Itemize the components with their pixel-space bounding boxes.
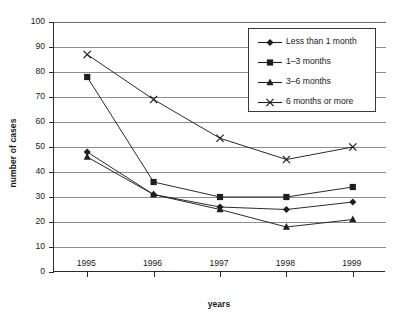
x-tick-label: 1995 bbox=[56, 259, 116, 268]
x-tick-mark bbox=[220, 272, 221, 277]
y-tick-label: 50 bbox=[0, 142, 45, 151]
data-point-cross bbox=[216, 135, 223, 142]
legend-item[interactable]: 1–3 months bbox=[256, 52, 374, 73]
data-point-square bbox=[350, 184, 356, 190]
x-tick-mark bbox=[353, 272, 354, 277]
y-tick-mark bbox=[49, 272, 54, 273]
y-tick-label: 10 bbox=[0, 242, 45, 251]
x-tick-label: 1999 bbox=[322, 259, 382, 268]
line-chart: number of cases years 010203040506070809… bbox=[0, 0, 409, 330]
y-tick-label: 90 bbox=[0, 42, 45, 51]
legend-label: 3–6 months bbox=[286, 77, 331, 86]
y-tick-label: 80 bbox=[0, 67, 45, 76]
x-tick-mark bbox=[286, 272, 287, 277]
triangle-marker bbox=[256, 72, 284, 93]
data-point-square bbox=[283, 194, 289, 200]
data-point-square bbox=[151, 179, 157, 185]
diamond-marker bbox=[256, 32, 284, 53]
y-tick-label: 40 bbox=[0, 167, 45, 176]
legend-item[interactable]: 6 months or more bbox=[256, 92, 374, 113]
x-tick-label: 1996 bbox=[123, 259, 183, 268]
y-tick-label: 60 bbox=[0, 117, 45, 126]
legend-item[interactable]: Less than 1 month bbox=[256, 32, 374, 53]
y-tick-label: 70 bbox=[0, 92, 45, 101]
data-point-cross bbox=[150, 96, 157, 103]
cross-marker bbox=[256, 92, 284, 113]
legend-label: 1–3 months bbox=[286, 57, 331, 66]
square-marker bbox=[256, 52, 284, 73]
data-point-diamond bbox=[349, 198, 356, 205]
data-point-square bbox=[84, 74, 90, 80]
legend-item[interactable]: 3–6 months bbox=[256, 72, 374, 93]
x-tick-label: 1997 bbox=[189, 259, 249, 268]
data-point-diamond bbox=[283, 206, 290, 213]
y-tick-label: 30 bbox=[0, 192, 45, 201]
data-point-square bbox=[217, 194, 223, 200]
y-tick-label: 20 bbox=[0, 217, 45, 226]
series-3 bbox=[84, 153, 357, 230]
legend-label: Less than 1 month bbox=[286, 37, 357, 46]
x-axis-title: years bbox=[53, 299, 385, 309]
x-tick-label: 1998 bbox=[255, 259, 315, 268]
y-tick-label: 100 bbox=[0, 17, 45, 26]
data-point-cross bbox=[84, 51, 91, 58]
legend: Less than 1 month1–3 months3–6 months6 m… bbox=[248, 28, 376, 112]
y-tick-label: 0 bbox=[0, 267, 45, 276]
series-1 bbox=[84, 148, 357, 213]
data-point-triangle bbox=[349, 216, 356, 223]
series-line bbox=[87, 157, 353, 227]
x-tick-mark bbox=[87, 272, 88, 277]
legend-label: 6 months or more bbox=[286, 97, 353, 106]
series-line bbox=[87, 152, 353, 210]
x-tick-mark bbox=[154, 272, 155, 277]
